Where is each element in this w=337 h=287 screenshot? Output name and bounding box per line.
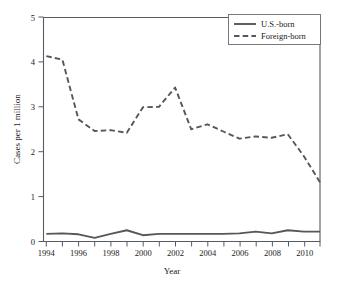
x-tick-label-2002: 2002 bbox=[167, 248, 184, 258]
line-chart: 0 1 2 3 4 5 1994 bbox=[0, 0, 337, 287]
legend-label-foreign-born: Foreign-born bbox=[261, 31, 307, 41]
y-axis-title: Cases per 1 million bbox=[12, 94, 22, 164]
series-line-foreign-born bbox=[46, 56, 320, 182]
x-tick-label-1998: 1998 bbox=[102, 248, 119, 258]
x-tick-label-2008: 2008 bbox=[264, 248, 281, 258]
x-axis-title: Year bbox=[164, 266, 181, 276]
y-tick-label-2: 2 bbox=[31, 147, 35, 157]
x-tick-label-2000: 2000 bbox=[135, 248, 152, 258]
series-line-us-born bbox=[46, 230, 320, 238]
y-axis-ticks: 0 1 2 3 4 5 bbox=[31, 13, 44, 247]
chart-figure: 0 1 2 3 4 5 1994 bbox=[0, 0, 337, 287]
data-series-group bbox=[46, 56, 320, 238]
x-tick-label-2004: 2004 bbox=[199, 248, 217, 258]
legend-label-us-born: U.S.-born bbox=[261, 19, 295, 29]
chart-legend: U.S.-born Foreign-born bbox=[229, 15, 321, 45]
y-tick-label-3: 3 bbox=[31, 102, 35, 112]
y-tick-label-4: 4 bbox=[31, 57, 36, 67]
x-tick-label-1994: 1994 bbox=[38, 248, 56, 258]
x-tick-label-2006: 2006 bbox=[232, 248, 249, 258]
y-tick-label-0: 0 bbox=[31, 237, 35, 247]
y-tick-label-1: 1 bbox=[31, 192, 35, 202]
plot-frame bbox=[43, 17, 321, 242]
y-tick-label-5: 5 bbox=[31, 13, 35, 23]
x-tick-label-2010: 2010 bbox=[296, 248, 313, 258]
x-tick-label-1996: 1996 bbox=[70, 248, 87, 258]
x-axis-ticks: 1994 1996 1998 2000 2002 2004 2006 2008 … bbox=[38, 242, 320, 259]
